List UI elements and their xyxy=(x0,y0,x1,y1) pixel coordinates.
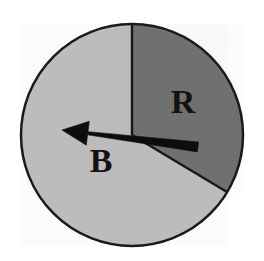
spinner-svg: R B xyxy=(0,0,264,261)
sector-label-r: R xyxy=(171,83,196,120)
spinner-figure: R B xyxy=(0,0,264,261)
sector-label-b: B xyxy=(90,142,113,179)
